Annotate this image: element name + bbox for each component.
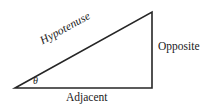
opposite-label: Opposite — [158, 41, 200, 53]
triangle-figure: Hypotenuse Opposite Adjacent θ — [0, 0, 208, 110]
adjacent-label: Adjacent — [66, 92, 108, 104]
theta-angle-label: θ — [33, 76, 38, 86]
